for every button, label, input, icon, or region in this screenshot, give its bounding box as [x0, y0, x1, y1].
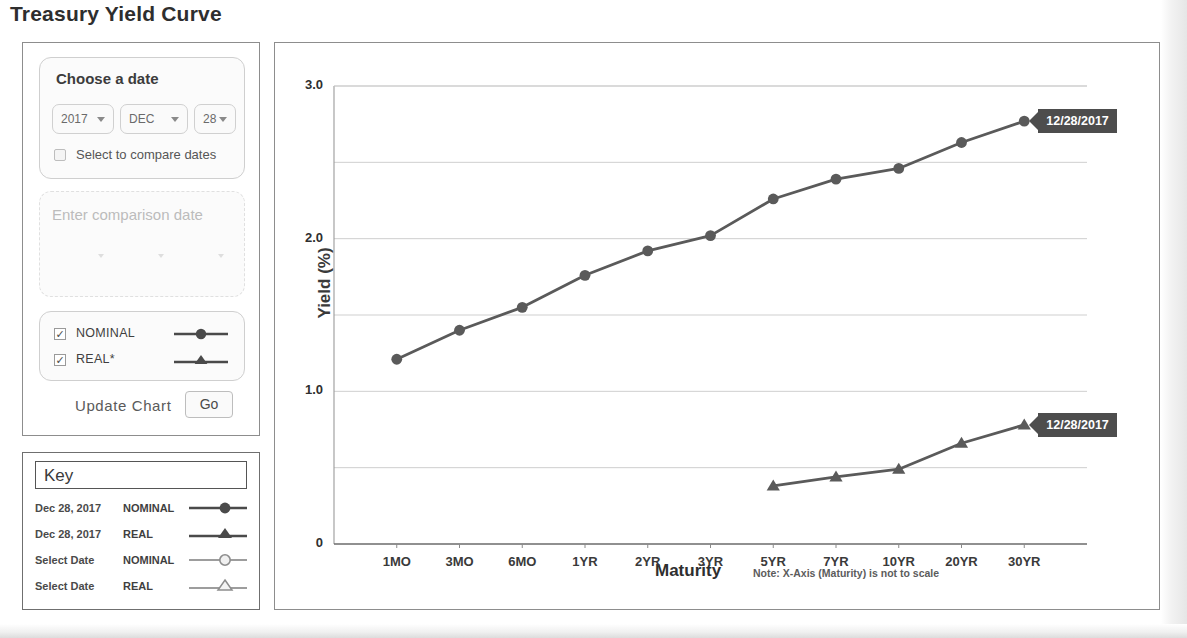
- chevron-down-icon: [171, 117, 179, 122]
- key-title-box: Key: [35, 461, 247, 489]
- compare-dates-row[interactable]: Select to compare dates: [54, 146, 244, 168]
- nominal-checkbox[interactable]: ✓: [54, 328, 66, 340]
- x-tick-label: 7YR: [806, 554, 866, 569]
- y-tick-label: 3.0: [283, 77, 323, 92]
- key-row-date: Dec 28, 2017: [35, 528, 101, 540]
- tooltip-arrow-icon: [1029, 416, 1038, 434]
- series-toggle-nominal[interactable]: ✓ NOMINAL: [54, 324, 234, 346]
- key-title: Key: [44, 466, 73, 486]
- real-label: REAL*: [76, 352, 115, 366]
- y-tick-label: 0: [283, 535, 323, 550]
- tooltip-arrow-icon: [1029, 112, 1038, 130]
- real-checkbox[interactable]: ✓: [54, 354, 66, 366]
- x-tick-label: 1YR: [555, 554, 615, 569]
- key-row: Dec 28, 2017 NOMINAL: [35, 499, 249, 521]
- chevron-down-icon: [218, 254, 224, 258]
- yield-curve-chart: [275, 43, 1161, 611]
- tooltip-label: 12/28/2017: [1046, 418, 1109, 432]
- key-row-date: Select Date: [35, 554, 94, 566]
- series-toggle-real[interactable]: ✓ REAL*: [54, 350, 234, 372]
- chevron-down-icon: [158, 254, 164, 258]
- tooltip-label: 12/28/2017: [1046, 114, 1109, 128]
- x-tick-label: 3MO: [430, 554, 490, 569]
- controls-panel: Choose a date 2017 DEC 28 Select to comp…: [22, 42, 260, 436]
- key-row-date: Select Date: [35, 580, 94, 592]
- chevron-down-icon: [98, 254, 104, 258]
- day-select[interactable]: 28: [194, 104, 236, 134]
- x-tick-label: 1MO: [367, 554, 427, 569]
- x-tick-label: 30YR: [994, 554, 1054, 569]
- page-scan-edge-bottom: [0, 624, 1187, 638]
- chevron-down-icon: [97, 117, 105, 122]
- year-select-value: 2017: [61, 112, 88, 126]
- page-title: Treasury Yield Curve: [10, 2, 222, 26]
- nominal-marker-icon: [172, 327, 230, 341]
- real-marker-icon: [172, 353, 230, 367]
- key-row-type: NOMINAL: [123, 502, 174, 514]
- key-marker-circle-filled-icon: [187, 500, 249, 516]
- key-marker-circle-hollow-icon: [187, 552, 249, 568]
- x-tick-label: 6MO: [492, 554, 552, 569]
- choose-date-label: Choose a date: [56, 70, 159, 87]
- series-date-tooltip: 12/28/2017: [1038, 413, 1117, 437]
- y-tick-label: 1.0: [283, 382, 323, 397]
- series-toggle-box: ✓ NOMINAL ✓ REAL*: [39, 311, 245, 381]
- go-button[interactable]: Go: [185, 391, 233, 418]
- key-marker-triangle-hollow-icon: [187, 578, 249, 594]
- y-tick-label: 2.0: [283, 230, 323, 245]
- key-row: Select Date REAL: [35, 577, 249, 599]
- x-tick-label: 3YR: [681, 554, 741, 569]
- update-chart-label: Update Chart: [75, 397, 171, 414]
- comparison-date-box[interactable]: Enter comparison date: [39, 191, 245, 297]
- key-row-type: REAL: [123, 528, 153, 540]
- x-tick-label: 10YR: [869, 554, 929, 569]
- nominal-label: NOMINAL: [76, 326, 135, 340]
- key-row: Dec 28, 2017 REAL: [35, 525, 249, 547]
- key-marker-triangle-filled-icon: [187, 526, 249, 542]
- month-select-value: DEC: [129, 112, 154, 126]
- page-scan-edge-right: [1161, 0, 1187, 638]
- year-select[interactable]: 2017: [52, 104, 114, 134]
- comparison-date-placeholder: Enter comparison date: [52, 206, 203, 223]
- x-tick-label: 5YR: [743, 554, 803, 569]
- compare-dates-checkbox[interactable]: [54, 149, 66, 161]
- key-row-type: NOMINAL: [123, 554, 174, 566]
- x-tick-label: 20YR: [932, 554, 992, 569]
- choose-date-box: Choose a date 2017 DEC 28 Select to comp…: [39, 57, 245, 179]
- chevron-down-icon: [219, 117, 227, 122]
- series-date-tooltip: 12/28/2017: [1038, 109, 1117, 133]
- x-tick-label: 2YR: [618, 554, 678, 569]
- key-panel: Key Dec 28, 2017 NOMINAL Dec 28, 2017 RE…: [22, 452, 260, 610]
- compare-dates-label: Select to compare dates: [76, 147, 216, 162]
- day-select-value: 28: [203, 112, 216, 126]
- key-row-date: Dec 28, 2017: [35, 502, 101, 514]
- key-row-type: REAL: [123, 580, 153, 592]
- chart-panel: Yield (%) Maturity Note: X-Axis (Maturit…: [274, 42, 1160, 610]
- month-select[interactable]: DEC: [120, 104, 188, 134]
- key-row: Select Date NOMINAL: [35, 551, 249, 573]
